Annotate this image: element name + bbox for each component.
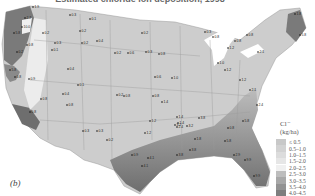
- station-value: 1.0: [174, 76, 179, 80]
- station-value: 0.2: [45, 31, 50, 35]
- station-value: 1.0: [220, 61, 225, 65]
- station-value: 0.2: [144, 31, 149, 35]
- legend-label: 1.0–1.5: [289, 152, 306, 158]
- legend-swatch: [276, 184, 286, 190]
- station-value: 0.6: [157, 75, 162, 79]
- station-value: 0.2: [84, 41, 89, 45]
- legend: Cl⁻ (kg/ha) ≤ 0.50.5–1.01.0–1.51.5–2.02.…: [276, 120, 306, 196]
- station-value: 0.4: [65, 92, 70, 96]
- station-value: 2.9: [236, 153, 241, 157]
- station-value: 2.4: [259, 103, 264, 107]
- station-value: 0.8: [230, 126, 235, 130]
- station-value: 0.3: [148, 50, 153, 54]
- station-value: 1.2: [230, 46, 235, 50]
- legend-label: 4.0–4.5: [289, 190, 306, 196]
- station-value: 0.6: [130, 51, 135, 55]
- legend-swatch: [276, 145, 286, 151]
- legend-row: 0.5–1.0: [276, 145, 306, 151]
- legend-label: 3.0–3.5: [289, 178, 306, 184]
- station-value: 0.4: [70, 67, 75, 71]
- station-value: 0.3: [99, 129, 104, 133]
- station-value: 5.8: [16, 31, 21, 35]
- station-value: 4.1: [150, 156, 155, 160]
- legend-row: 2.0–2.5: [276, 165, 306, 171]
- station-marker: 10.0: [21, 25, 30, 29]
- station-value: 1.2: [147, 131, 152, 135]
- station-value: 0.1: [80, 83, 85, 87]
- station-value: 0.3: [72, 13, 77, 17]
- station-value: 1.8: [197, 137, 202, 141]
- legend-label: 2.5–3.0: [289, 171, 306, 177]
- legend-row: 3.0–3.5: [276, 177, 306, 183]
- legend-label: 2.0–2.5: [289, 165, 306, 171]
- station-value: 1.8: [297, 12, 302, 16]
- station-value: 0.8: [215, 35, 220, 39]
- legend-label: 3.5–4.0: [289, 184, 306, 190]
- station-value: 5.8: [245, 119, 250, 123]
- station-value: 0.8: [249, 33, 254, 37]
- legend-row: 1.5–2.0: [276, 158, 306, 164]
- station-value: 0.8: [29, 43, 34, 47]
- station-value: 0.9: [31, 77, 36, 81]
- station-value: 0.9: [134, 153, 139, 157]
- panel-label: (b): [10, 178, 21, 188]
- station-value: 0.2: [119, 93, 124, 97]
- station-value: 3.8: [179, 153, 184, 157]
- station-value: 1.2: [227, 68, 232, 72]
- station-value: 0.2: [82, 29, 87, 33]
- legend-label: ≤ 0.5: [289, 139, 300, 145]
- station-value: 9.9: [256, 174, 261, 178]
- station-value: 9.9: [247, 158, 252, 162]
- station-value: 0.8: [126, 94, 131, 98]
- station-value: 0.8: [43, 97, 48, 101]
- legend-row: 2.5–3.0: [276, 171, 306, 177]
- station-value: 10.0: [24, 25, 31, 29]
- station-value: 0.8: [237, 39, 242, 43]
- station-value: 0.1: [92, 17, 97, 21]
- station-value: 0.3: [57, 41, 62, 45]
- station-value: 0.2: [19, 50, 24, 54]
- station-value: 4.1: [144, 164, 149, 168]
- legend-label: 0.5–1.0: [289, 146, 306, 152]
- station-value: 5.8: [12, 68, 17, 72]
- station-value: 0.2: [109, 138, 114, 142]
- legend-swatch: [276, 139, 286, 145]
- station-value: 0.1: [54, 48, 59, 52]
- legend-swatch: [276, 190, 286, 196]
- station-value: 2.1: [260, 50, 265, 54]
- station-value: 5.8: [227, 139, 232, 143]
- legend-swatch: [276, 165, 286, 171]
- station-value: 2.1: [252, 88, 257, 92]
- legend-row: 3.5–4.0: [276, 184, 306, 190]
- station-value: 1.9: [35, 5, 40, 9]
- station-value: 1.2: [152, 119, 157, 123]
- station-value: 0.8: [32, 110, 37, 114]
- legend-swatch: [276, 158, 286, 164]
- station-value: 0.3: [207, 30, 212, 34]
- station-value: 0.2: [117, 51, 122, 55]
- station-value: 1.4: [179, 115, 184, 119]
- station-value: 0.8: [69, 103, 74, 107]
- legend-classes: ≤ 0.50.5–1.01.0–1.51.5–2.02.0–2.52.5–3.0…: [276, 139, 306, 196]
- legend-title: Cl⁻: [280, 120, 306, 128]
- legend-unit: (kg/ha): [280, 128, 306, 136]
- station-value: 3.8: [201, 116, 206, 120]
- station-value: 1.2: [242, 78, 247, 82]
- station-value: 3.2: [177, 123, 182, 127]
- legend-row: 1.0–1.5: [276, 152, 306, 158]
- station-value: 0.8: [17, 75, 22, 79]
- station-value: 3.8: [192, 148, 197, 152]
- station-value: 0.4: [99, 39, 104, 43]
- station-value: 3.2: [189, 124, 194, 128]
- legend-row: 4.0–4.5: [276, 190, 306, 196]
- legend-swatch: [276, 171, 286, 177]
- us-chloride-map: 1.92.710.05.80.80.25.80.80.90.30.10.20.3…: [0, 0, 315, 196]
- station-value: 2.7: [27, 16, 32, 20]
- legend-swatch: [276, 177, 286, 183]
- station-value: 0.8: [161, 52, 166, 56]
- station-value: 1.4: [164, 100, 169, 104]
- legend-label: 1.5–2.0: [289, 158, 306, 164]
- station-value: 0.3: [85, 129, 90, 133]
- legend-swatch: [276, 152, 286, 158]
- station-value: 0.8: [155, 94, 160, 98]
